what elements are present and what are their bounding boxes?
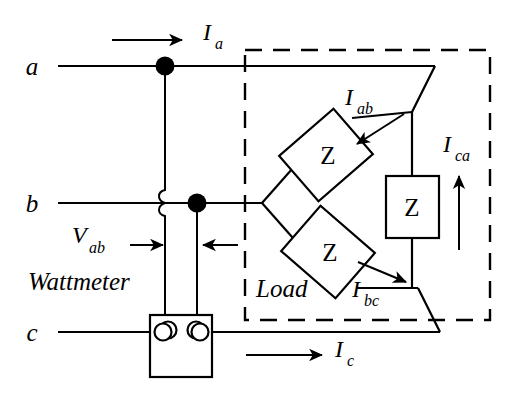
phase-a-diagonal-to-delta [412, 66, 435, 112]
voltage-label-Vab-sub: ab [89, 239, 105, 256]
junction-node-a [156, 57, 175, 76]
load-label: Load [255, 275, 308, 302]
current-label-Ic-base: I [334, 336, 344, 362]
current-label-Ibc-base: I [351, 276, 361, 302]
phase-c-diagonal-to-delta [418, 288, 440, 332]
current-label-Ica-base: I [442, 131, 452, 157]
impedance-Zca-label: Z [404, 194, 419, 221]
current-arrow-Ibc [358, 262, 406, 282]
current-label-Ia-base: I [202, 19, 212, 45]
impedance-Zab-label: Z [320, 142, 335, 169]
voltage-label-Vab: V ab [72, 222, 105, 256]
junction-node-b [188, 194, 207, 213]
current-label-Ic-sub: c [347, 352, 354, 369]
current-arrow-Iab [357, 114, 404, 144]
current-label-Ica-sub: ca [455, 147, 470, 164]
terminal-label-c: c [26, 319, 37, 346]
wattmeter-terminal-current-1 [155, 324, 172, 341]
current-label-Iab-base: I [344, 84, 354, 110]
wattmeter-label: Wattmeter [28, 268, 130, 295]
wattmeter-voltage-lead-from-a [159, 66, 165, 315]
current-label-Ic: I c [334, 336, 354, 369]
current-label-Iab-sub: ab [357, 100, 373, 117]
current-label-Iab: I ab [344, 84, 373, 117]
impedance-Zbc-label: Z [322, 239, 337, 266]
terminal-label-b: b [26, 190, 39, 217]
terminal-label-a: a [26, 53, 39, 80]
circuit-diagram-canvas: Z Z Z a b c I a I c I ab I bc I ca V ab [0, 0, 518, 393]
current-label-Ibc: I bc [351, 276, 379, 309]
current-label-Ica: I ca [442, 131, 470, 164]
current-label-Ibc-sub: bc [364, 292, 379, 309]
current-label-Ia-sub: a [215, 35, 223, 52]
wattmeter-terminal-current-2 [192, 324, 209, 341]
voltage-label-Vab-base: V [72, 222, 89, 248]
current-label-Ia: I a [202, 19, 223, 52]
